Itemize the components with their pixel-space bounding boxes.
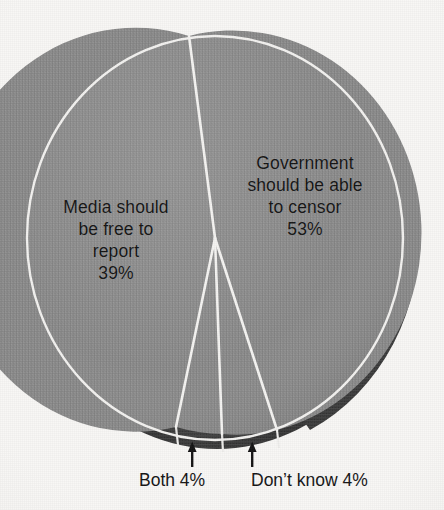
slice-label-government-censor: Government should be able to censor 53% <box>230 152 380 240</box>
slice-label-media-free: Media should be free to report 39% <box>36 196 196 284</box>
callout-label-both: Both 4% <box>139 470 205 491</box>
callout-label-dont-know: Don’t know 4% <box>251 470 368 491</box>
pie-chart-figure: Government should be able to censor 53% … <box>0 0 444 510</box>
